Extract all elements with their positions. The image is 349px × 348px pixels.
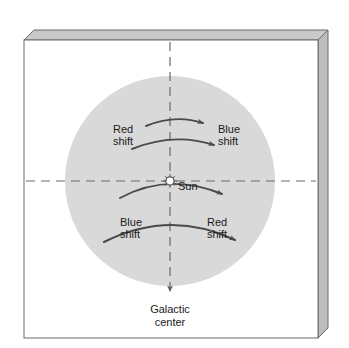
galactic-rotation-diagram: Red shift Blue shift Blue shift Red shif… [0,0,349,348]
label-blue-shift-upper-right-line1: Blue [218,123,240,135]
label-red-shift-upper-left-line1: Red [113,123,133,135]
label-blue-shift-upper-right-line2: shift [218,135,238,147]
label-blue-shift-upper-right: Blue shift [218,123,240,147]
galactic-center-caption-line2: center [155,316,186,328]
label-blue-shift-lower-left: Blue shift [120,216,142,240]
sun-label: Sun [178,180,198,192]
frame-top-face [24,30,328,40]
frame-right-face [318,30,328,338]
label-red-shift-lower-right: Red shift [207,216,227,240]
label-red-shift-upper-left: Red shift [113,123,133,147]
label-blue-shift-lower-left-line1: Blue [120,216,142,228]
figure-root: Red shift Blue shift Blue shift Red shif… [0,0,349,348]
label-red-shift-lower-right-line2: shift [207,228,227,240]
galactic-center-caption: Galactic center [150,303,190,328]
label-blue-shift-lower-left-line2: shift [120,228,140,240]
label-red-shift-lower-right-line1: Red [207,216,227,228]
label-red-shift-upper-left-line2: shift [113,135,133,147]
galactic-center-caption-line1: Galactic [150,303,190,315]
